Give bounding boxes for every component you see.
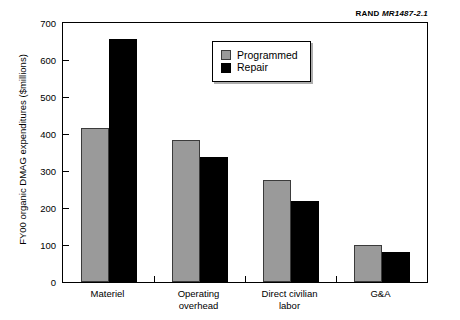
- credit-report: MR1487-2.1: [382, 9, 428, 18]
- bar-repair: [382, 252, 410, 282]
- x-axis-category-label: Direct civilian labor: [244, 288, 335, 311]
- bar-programmed: [354, 245, 382, 282]
- legend-label-programmed: Programmed: [237, 50, 298, 61]
- y-axis-tick-label: 200: [23, 203, 56, 214]
- x-axis-tick-mark: [154, 276, 155, 282]
- legend-swatch-programmed: [221, 50, 231, 60]
- y-axis-tick-label: 700: [23, 18, 56, 29]
- source-credit: RAND MR1487-2.1: [356, 9, 428, 18]
- bar-group: [81, 23, 137, 282]
- x-axis-tick-mark: [336, 276, 337, 282]
- x-axis-tick-mark: [245, 276, 246, 282]
- y-axis-tick-mark: [63, 134, 69, 135]
- y-axis-tick-label: 300: [23, 166, 56, 177]
- bar-repair: [200, 157, 228, 282]
- x-axis-category-label: Materiel: [62, 288, 153, 300]
- legend-swatch-repair: [221, 63, 231, 73]
- legend-item-repair: Repair: [221, 62, 298, 73]
- bar-group: [354, 23, 410, 282]
- credit-brand: RAND: [356, 9, 380, 18]
- y-axis-tick-mark: [63, 208, 69, 209]
- chart-figure: RAND MR1487-2.1 FY00 organic DMAG expend…: [0, 0, 460, 320]
- chart-legend: Programmed Repair: [212, 41, 311, 82]
- y-axis-tick-mark: [63, 60, 69, 61]
- x-axis-category-label: Operating overhead: [153, 288, 244, 311]
- y-axis-tick-label: 400: [23, 129, 56, 140]
- x-axis-category-label: G&A: [335, 288, 426, 300]
- bar-programmed: [81, 128, 109, 282]
- y-axis-tick-mark: [63, 171, 69, 172]
- bar-repair: [109, 39, 137, 282]
- y-axis-tick-label: 100: [23, 240, 56, 251]
- y-axis-tick-label: 0: [23, 277, 56, 288]
- y-axis-tick-label: 600: [23, 55, 56, 66]
- bar-programmed: [172, 140, 200, 282]
- bar-repair: [291, 201, 319, 282]
- y-axis-tick-mark: [63, 245, 69, 246]
- bar-programmed: [263, 180, 291, 282]
- legend-item-programmed: Programmed: [221, 50, 298, 61]
- y-axis-tick-mark: [63, 97, 69, 98]
- y-axis-tick-label: 500: [23, 92, 56, 103]
- legend-label-repair: Repair: [237, 62, 268, 73]
